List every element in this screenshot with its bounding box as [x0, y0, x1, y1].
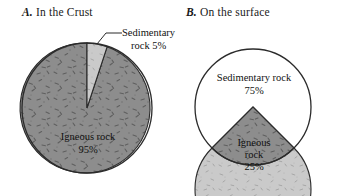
chart-a-title-text: In the Crust — [36, 6, 93, 18]
pie-a-sedimentary-name: Sedimentary — [122, 26, 198, 39]
rock-distribution-figure: A. In the Crust B. On the surface — [0, 0, 342, 196]
pie-a-sedimentary-label: Sedimentary rock 5% — [122, 26, 198, 52]
pie-b-sedimentary-value: 75% — [200, 85, 308, 98]
pie-a-igneous-label: Igneous rock 95% — [36, 131, 140, 156]
pie-b-igneous-value: 25% — [219, 161, 289, 173]
pie-b-igneous-label: Igneous rock 25% — [219, 137, 289, 173]
pie-a-slice-sedimentary — [87, 43, 107, 108]
pie-a-igneous-value: 95% — [36, 144, 140, 157]
pie-a-leader-line — [97, 33, 122, 44]
pie-a-igneous-name: Igneous rock — [36, 131, 140, 144]
chart-a-title: A. In the Crust — [22, 6, 93, 18]
pie-b-sedimentary-label: Sedimentary rock 75% — [200, 72, 308, 97]
chart-a-marker: A. — [22, 6, 33, 18]
pie-b-igneous-name-line1: Igneous — [219, 137, 289, 149]
chart-b-title: B. On the surface — [186, 6, 270, 18]
pie-b-igneous-name-line2: rock — [219, 149, 289, 161]
pie-b-sedimentary-name: Sedimentary rock — [200, 72, 308, 85]
pie-a-sedimentary-value: rock 5% — [122, 39, 198, 52]
chart-b-title-text: On the surface — [200, 6, 270, 18]
chart-b-marker: B. — [186, 6, 197, 18]
